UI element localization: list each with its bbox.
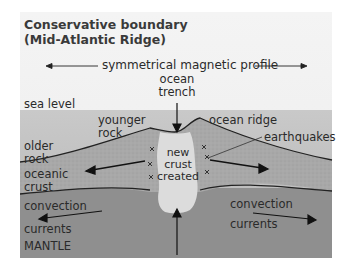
older-rock-label: older rock (24, 140, 53, 166)
new-crust-label: new crust created (156, 147, 200, 183)
convection-currents-right-label: convection (230, 198, 293, 211)
oceanic-crust-label: oceanic crust (24, 168, 68, 194)
earthquakes-label: earthquakes (264, 131, 336, 144)
magnetic-profile-label: symmetrical magnetic profile (102, 59, 278, 72)
younger-rock-line-2: rock (98, 127, 146, 140)
convection-currents-left-label-2: currents (24, 223, 71, 236)
ocean-trench-label: ocean trench (156, 73, 198, 99)
diagram-title: Conservative boundary (Mid-Atlantic Ridg… (24, 17, 188, 47)
title-line-1: Conservative boundary (24, 17, 188, 32)
title-line-2: (Mid-Atlantic Ridge) (24, 32, 188, 47)
new-crust-line-3: created (156, 171, 200, 183)
mantle-label: MANTLE (24, 240, 71, 253)
oceanic-crust-line-2: crust (24, 181, 68, 194)
convection-currents-left-label: convection (24, 200, 87, 213)
younger-rock-label: younger rock (98, 114, 146, 140)
sea-level-label: sea level (24, 98, 75, 111)
older-rock-line-2: rock (24, 153, 53, 166)
convection-currents-right-label-2: currents (230, 218, 277, 231)
ocean-trench-line-2: trench (156, 86, 198, 99)
ocean-ridge-label: ocean ridge (209, 114, 277, 127)
